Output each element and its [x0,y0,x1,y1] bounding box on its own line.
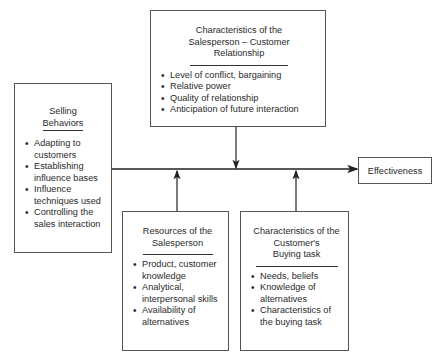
list-item: Knowledge of alternatives [251,282,342,305]
title-line: Behaviors [43,118,84,132]
list-item: Product, customer knowledge [133,259,222,282]
buying-task-items: Needs, beliefs Knowledge of alternatives… [251,271,342,329]
buying-task-box: Characteristics of the Customer's Buying… [240,211,349,351]
list-item: Level of conflict, bargaining [161,70,317,82]
title-line: Customer's [251,238,342,250]
effectiveness-label: Effectiveness [368,166,422,176]
list-item: Establishing influence bases [25,161,107,184]
title-line: Characteristics of the [251,226,342,238]
title-divider [256,266,338,267]
list-item: Controlling the sales interaction [25,207,107,230]
selling-items: Adapting to customers Establishing influ… [25,138,107,230]
list-item: Analytical, interpersonal skills [133,282,222,305]
list-item: Influence techniques used [25,184,107,207]
list-item: Needs, beliefs [251,271,342,283]
title-line: Relationship [161,48,317,60]
resources-items: Product, customer knowledge Analytical, … [133,259,222,328]
title-line: Buying task [251,249,342,261]
title-line: Salesperson – Customer [161,37,317,49]
title-divider [190,65,288,66]
list-item: Adapting to customers [25,138,107,161]
title-line: Salesperson [133,238,222,250]
list-item: Anticipation of future interaction [161,104,317,116]
title-divider [143,254,213,255]
effectiveness-box: Effectiveness [358,157,432,184]
title-line: Resources of the [133,226,222,238]
relationship-box: Characteristics of the Salesperson – Cus… [150,10,326,127]
title-line: Selling [25,106,101,118]
list-item: Characteristics of the buying task [251,305,342,328]
list-item: Relative power [161,81,317,93]
relationship-items: Level of conflict, bargaining Relative p… [161,70,317,116]
resources-box: Resources of the Salesperson Product, cu… [122,211,229,351]
relationship-title: Characteristics of the Salesperson – Cus… [161,25,317,60]
selling-title: Selling Behaviors [25,106,107,131]
resources-title: Resources of the Salesperson [133,226,222,249]
selling-behaviors-box: Selling Behaviors Adapting to customers … [14,83,112,253]
list-item: Availability of alternatives [133,305,222,328]
buying-task-title: Characteristics of the Customer's Buying… [251,226,342,261]
title-line: Characteristics of the [161,25,317,37]
list-item: Quality of relationship [161,93,317,105]
